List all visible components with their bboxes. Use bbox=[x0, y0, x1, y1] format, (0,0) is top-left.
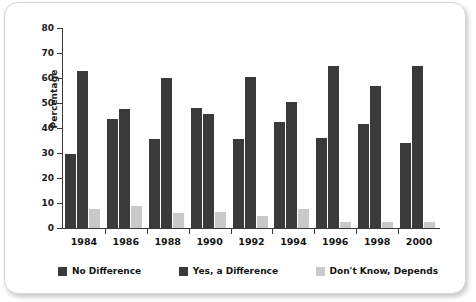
bar[interactable] bbox=[245, 77, 256, 228]
y-tick-label: 40 bbox=[28, 124, 54, 133]
x-tick-label: 1986 bbox=[105, 236, 147, 247]
bar[interactable] bbox=[412, 66, 423, 229]
x-axis-line bbox=[62, 228, 440, 229]
legend-label: Don't Know, Depends bbox=[330, 266, 438, 276]
legend-item[interactable]: Don't Know, Depends bbox=[316, 266, 438, 276]
bar[interactable] bbox=[107, 119, 118, 228]
legend-swatch-icon bbox=[58, 267, 67, 276]
bar[interactable] bbox=[215, 212, 226, 228]
x-tick-mark bbox=[189, 228, 190, 234]
legend-label: Yes, a Difference bbox=[193, 266, 278, 276]
y-tick-label: 50 bbox=[28, 99, 54, 108]
bar[interactable] bbox=[382, 222, 393, 228]
bar[interactable] bbox=[77, 71, 88, 229]
legend-item[interactable]: No Difference bbox=[58, 266, 141, 276]
bar-group bbox=[105, 28, 147, 228]
x-tick-mark bbox=[272, 228, 273, 234]
bar[interactable] bbox=[203, 114, 214, 228]
bar[interactable] bbox=[119, 109, 130, 228]
x-tick-label: 2000 bbox=[398, 236, 440, 247]
x-tick-mark bbox=[231, 228, 232, 234]
bar-group bbox=[314, 28, 356, 228]
x-tick-label: 1990 bbox=[189, 236, 231, 247]
y-tick-label: 10 bbox=[28, 199, 54, 208]
legend-label: No Difference bbox=[72, 266, 141, 276]
x-tick-mark bbox=[314, 228, 315, 234]
x-tick-mark bbox=[398, 228, 399, 234]
legend-item[interactable]: Yes, a Difference bbox=[179, 266, 278, 276]
x-tick-mark bbox=[147, 228, 148, 234]
bar[interactable] bbox=[424, 222, 435, 228]
bar-group bbox=[272, 28, 314, 228]
plot-area bbox=[63, 28, 440, 228]
bar[interactable] bbox=[173, 213, 184, 228]
bar[interactable] bbox=[257, 216, 268, 229]
bar[interactable] bbox=[328, 66, 339, 229]
bar[interactable] bbox=[298, 209, 309, 228]
y-tick-label: 80 bbox=[28, 24, 54, 33]
bar[interactable] bbox=[400, 143, 411, 228]
bar-group bbox=[189, 28, 231, 228]
bar[interactable] bbox=[65, 154, 76, 228]
chart-legend: No DifferenceYes, a DifferenceDon't Know… bbox=[58, 262, 438, 280]
x-tick-mark bbox=[105, 228, 106, 234]
x-tick-label: 1992 bbox=[231, 236, 273, 247]
x-tick-mark bbox=[356, 228, 357, 234]
bar[interactable] bbox=[161, 78, 172, 228]
bar[interactable] bbox=[370, 86, 381, 229]
y-tick-label: 20 bbox=[28, 174, 54, 183]
y-tick-label: 60 bbox=[28, 74, 54, 83]
y-tick-label: 30 bbox=[28, 149, 54, 158]
x-tick-label: 1984 bbox=[63, 236, 105, 247]
bar[interactable] bbox=[89, 209, 100, 228]
bar[interactable] bbox=[131, 206, 142, 229]
bar[interactable] bbox=[340, 222, 351, 228]
bar-group bbox=[63, 28, 105, 228]
bar-group bbox=[356, 28, 398, 228]
legend-swatch-icon bbox=[179, 267, 188, 276]
bar[interactable] bbox=[233, 139, 244, 228]
bar[interactable] bbox=[358, 124, 369, 228]
x-tick-label: 1994 bbox=[272, 236, 314, 247]
y-tick-label: 0 bbox=[28, 224, 54, 233]
x-tick-label: 1988 bbox=[147, 236, 189, 247]
bar-chart: Percentage 01020304050607080 19841986198… bbox=[0, 0, 476, 302]
bar-group bbox=[147, 28, 189, 228]
bar[interactable] bbox=[316, 138, 327, 228]
bar-group bbox=[398, 28, 440, 228]
bar-group bbox=[231, 28, 273, 228]
bar[interactable] bbox=[274, 122, 285, 228]
legend-swatch-icon bbox=[316, 267, 325, 276]
bar[interactable] bbox=[191, 108, 202, 228]
bar[interactable] bbox=[149, 139, 160, 228]
y-tick-label: 70 bbox=[28, 49, 54, 58]
x-tick-label: 1998 bbox=[356, 236, 398, 247]
bar[interactable] bbox=[286, 102, 297, 228]
x-tick-label: 1996 bbox=[314, 236, 356, 247]
